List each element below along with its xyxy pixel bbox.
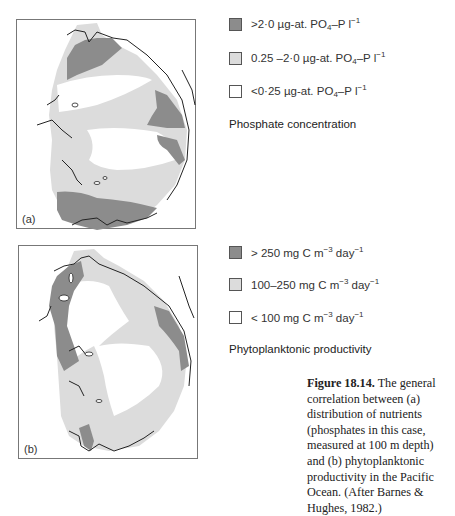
figure-number: Figure 18.14.: [307, 376, 375, 390]
legend-label: <0·25 µg-at. PO4–P l−1: [251, 83, 367, 99]
legend-label: < 100 mg C m−3 day−1: [251, 310, 364, 324]
legend-item-medium: 0.25 –2·0 µg-at. PO4–P l−1: [229, 50, 385, 66]
swatch-low: [229, 85, 242, 98]
legend-item-high: > 250 mg C m−3 day−1: [229, 245, 364, 259]
coastline-east: [179, 276, 194, 318]
island: [69, 273, 73, 283]
island: [103, 177, 107, 180]
phosphate-map: [17, 20, 197, 230]
map-panel-a: (a): [16, 19, 196, 229]
island: [85, 352, 93, 356]
legend-label: >2·0 µg-at. PO4–P l−1: [251, 16, 360, 32]
caption-text: The general correlation between (a) dist…: [307, 376, 436, 515]
legend-item-medium: 100–250 mg C m−3 day−1: [229, 277, 379, 291]
legend-label: 100–250 mg C m−3 day−1: [251, 277, 379, 291]
swatch-high: [229, 246, 242, 259]
figure-caption: Figure 18.14. The general correlation be…: [307, 376, 453, 516]
island: [72, 103, 78, 107]
panel-label-a: (a): [22, 213, 35, 225]
panel-label-b: (b): [24, 443, 37, 455]
island: [59, 295, 69, 301]
legend-title-phosphate: Phosphate concentration: [229, 118, 356, 130]
swatch-low: [229, 311, 242, 324]
swatch-medium: [229, 52, 242, 65]
island: [94, 182, 100, 185]
legend-item-low: < 100 mg C m−3 day−1: [229, 310, 364, 324]
swatch-medium: [229, 278, 242, 291]
coastline-east: [182, 70, 195, 105]
legend-item-high: >2·0 µg-at. PO4–P l−1: [229, 16, 360, 32]
legend-title-productivity: Phytoplanktonic productivity: [229, 343, 372, 355]
legend-label: 0.25 –2·0 µg-at. PO4–P l−1: [251, 50, 385, 66]
legend-label: > 250 mg C m−3 day−1: [251, 245, 364, 259]
swatch-high: [229, 18, 242, 31]
legend-item-low: <0·25 µg-at. PO4–P l−1: [229, 83, 367, 99]
island: [96, 400, 102, 403]
map-panel-b: (b): [18, 245, 198, 459]
productivity-map: [19, 246, 199, 460]
